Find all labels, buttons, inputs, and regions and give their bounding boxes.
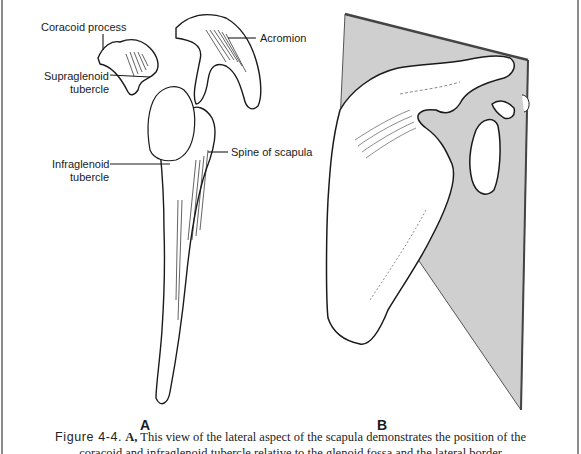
label-acromion: Acromion xyxy=(260,32,306,45)
figure-number: Figure 4-4. xyxy=(55,430,122,444)
label-infraglenoid-line2: tubercle xyxy=(70,171,109,184)
caption-text: This view of the lateral aspect of the s… xyxy=(140,430,526,444)
caption-text-line2: coracoid and infraglenoid tubercle relat… xyxy=(0,446,581,454)
figure-page: Coracoid process Acromion Supraglenoid t… xyxy=(0,0,581,454)
label-supraglenoid-line1: Supraglenoid xyxy=(44,70,109,83)
label-infraglenoid-line1: Infraglenoid xyxy=(52,158,110,171)
label-supraglenoid-line2: tubercle xyxy=(70,83,109,96)
label-coracoid-process: Coracoid process xyxy=(41,21,127,34)
scapula-lateral-illustration xyxy=(0,0,581,454)
figure-caption-line1: Figure 4-4. A, This view of the lateral … xyxy=(0,430,581,445)
figure-caption-line2-clipped: coracoid and infraglenoid tubercle relat… xyxy=(0,446,581,454)
label-spine-of-scapula: Spine of scapula xyxy=(231,146,312,159)
panel-reference: A, xyxy=(125,430,137,444)
